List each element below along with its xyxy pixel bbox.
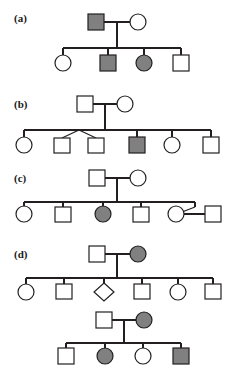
individual-circle-unaffected[interactable] bbox=[168, 206, 184, 222]
twin-connector-left bbox=[62, 130, 79, 138]
individual-circle-affected[interactable] bbox=[97, 348, 113, 364]
individual-square-unaffected[interactable] bbox=[134, 284, 150, 299]
individual-square-unaffected[interactable] bbox=[56, 284, 72, 299]
individual-square-unaffected[interactable] bbox=[77, 96, 93, 112]
individual-circle-unaffected[interactable] bbox=[16, 206, 32, 222]
individual-square-unaffected[interactable] bbox=[205, 284, 221, 299]
individual-square-unaffected[interactable] bbox=[173, 55, 189, 71]
individual-square-unaffected[interactable] bbox=[203, 137, 219, 153]
individual-circle-unaffected[interactable] bbox=[55, 55, 71, 71]
individual-circle-affected[interactable] bbox=[136, 312, 152, 328]
individual-circle-unaffected[interactable] bbox=[135, 348, 151, 364]
individual-circle-unaffected[interactable] bbox=[117, 96, 133, 112]
individual-square-unaffected[interactable] bbox=[96, 312, 112, 328]
panel-c: (c) bbox=[14, 170, 221, 222]
pedigree-figure: (a) (b) bbox=[0, 0, 236, 371]
panel-a: (a) bbox=[14, 12, 189, 71]
panel-c-label: (c) bbox=[14, 172, 27, 185]
individual-circle-unaffected[interactable] bbox=[164, 137, 180, 153]
panel-b: (b) bbox=[14, 96, 219, 153]
individual-square-affected[interactable] bbox=[88, 14, 104, 30]
individual-square-spouse[interactable] bbox=[205, 206, 221, 222]
individual-square-affected[interactable] bbox=[173, 348, 189, 364]
individual-circle-unaffected[interactable] bbox=[130, 170, 146, 186]
panel-b-label: (b) bbox=[14, 98, 28, 111]
panel-d: (d) bbox=[14, 246, 221, 364]
individual-square-unaffected-twin[interactable] bbox=[88, 138, 104, 153]
twin-connector-right bbox=[79, 130, 96, 138]
individual-square-unaffected[interactable] bbox=[58, 348, 74, 364]
individual-circle-affected[interactable] bbox=[130, 246, 146, 262]
individual-circle-unaffected[interactable] bbox=[130, 14, 146, 30]
individual-circle-unaffected[interactable] bbox=[170, 284, 186, 300]
panel-a-label: (a) bbox=[14, 12, 27, 25]
individual-circle-unaffected[interactable] bbox=[16, 137, 32, 153]
individual-square-unaffected-twin[interactable] bbox=[54, 138, 70, 153]
individual-square-unaffected[interactable] bbox=[89, 246, 105, 262]
individual-diamond-unknown-sex[interactable] bbox=[94, 283, 114, 301]
individual-square-affected[interactable] bbox=[100, 55, 116, 71]
individual-circle-affected[interactable] bbox=[136, 55, 152, 71]
individual-square-unaffected[interactable] bbox=[89, 170, 105, 186]
individual-circle-unaffected[interactable] bbox=[18, 284, 34, 300]
panel-d-label: (d) bbox=[14, 248, 28, 261]
individual-square-unaffected[interactable] bbox=[55, 207, 71, 222]
individual-square-affected[interactable] bbox=[129, 137, 145, 153]
individual-circle-affected[interactable] bbox=[95, 206, 111, 222]
individual-square-unaffected[interactable] bbox=[133, 207, 149, 222]
